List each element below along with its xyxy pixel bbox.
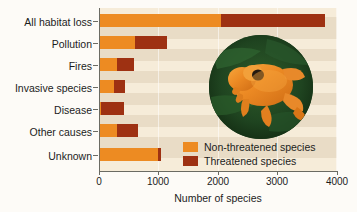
cat-label-unknown: Unknown bbox=[0, 150, 92, 162]
bar-segment bbox=[99, 58, 117, 71]
cat-text: Other causes bbox=[30, 126, 92, 138]
bar-segment bbox=[158, 148, 161, 161]
legend-swatch-icon bbox=[183, 142, 198, 152]
bar-segment bbox=[117, 124, 138, 137]
cat-text: All habitat loss bbox=[24, 16, 92, 28]
bar-segment bbox=[99, 14, 221, 27]
bar-disease bbox=[99, 102, 124, 115]
x-tick-2000 bbox=[218, 171, 219, 175]
cat-tick bbox=[93, 43, 98, 44]
x-tick-1000 bbox=[158, 171, 159, 175]
x-tick-4000 bbox=[337, 171, 338, 175]
bar-segment bbox=[101, 102, 124, 115]
cat-label-all-habitat-loss: All habitat loss bbox=[0, 16, 92, 28]
bar-other-causes bbox=[99, 124, 138, 137]
bar-segment bbox=[114, 80, 125, 93]
x-tick-3000 bbox=[277, 171, 278, 175]
bar-segment bbox=[221, 14, 325, 27]
x-axis-title: Number of species bbox=[99, 192, 337, 204]
cat-label-pollution: Pollution bbox=[0, 38, 92, 50]
cat-text: Pollution bbox=[52, 38, 92, 50]
cat-label-disease: Disease bbox=[0, 104, 92, 116]
cat-text: Invasive species bbox=[15, 82, 92, 94]
x-tick-label-1000: 1000 bbox=[147, 176, 169, 187]
gridline-4000 bbox=[336, 8, 337, 171]
cat-label-fires: Fires bbox=[0, 60, 92, 72]
bar-invasive-species bbox=[99, 80, 125, 93]
golden-toad-photo bbox=[209, 35, 313, 139]
bar-segment bbox=[99, 36, 135, 49]
bar-segment bbox=[99, 80, 114, 93]
chart-figure: All habitat loss Pollution Fires Invasiv… bbox=[0, 0, 357, 212]
cat-text: Unknown bbox=[48, 150, 92, 162]
cat-tick bbox=[93, 155, 98, 156]
x-tick-label-2000: 2000 bbox=[207, 176, 229, 187]
bar-segment bbox=[117, 58, 134, 71]
y-axis-line bbox=[99, 8, 100, 171]
cat-text: Disease bbox=[54, 104, 92, 116]
legend-item-threatened: Threatened species bbox=[183, 154, 316, 167]
bar-unknown bbox=[99, 148, 161, 161]
gridline-1000 bbox=[158, 8, 159, 171]
cat-label-other-causes: Other causes bbox=[0, 126, 92, 138]
bar-segment bbox=[99, 124, 117, 137]
legend-swatch-icon bbox=[183, 156, 198, 166]
legend-label: Threatened species bbox=[204, 155, 296, 167]
legend-label: Non-threatened species bbox=[204, 141, 316, 153]
cat-tick bbox=[93, 109, 98, 110]
x-tick-label-4000: 4000 bbox=[326, 176, 348, 187]
bar-all-habitat-loss bbox=[99, 14, 325, 27]
bar-pollution bbox=[99, 36, 167, 49]
x-tick-label-3000: 3000 bbox=[266, 176, 288, 187]
cat-text: Fires bbox=[69, 60, 92, 72]
x-tick-label-0: 0 bbox=[96, 176, 102, 187]
cat-label-invasive-species: Invasive species bbox=[0, 82, 92, 94]
cat-tick bbox=[93, 65, 98, 66]
bar-segment bbox=[99, 148, 158, 161]
cat-tick bbox=[93, 87, 98, 88]
cat-tick bbox=[93, 21, 98, 22]
x-tick-0 bbox=[99, 171, 100, 175]
cat-tick bbox=[93, 131, 98, 132]
bar-segment bbox=[135, 36, 167, 49]
chart-legend: Non-threatened species Threatened specie… bbox=[183, 140, 316, 168]
bar-fires bbox=[99, 58, 134, 71]
legend-item-non-threatened: Non-threatened species bbox=[183, 140, 316, 153]
